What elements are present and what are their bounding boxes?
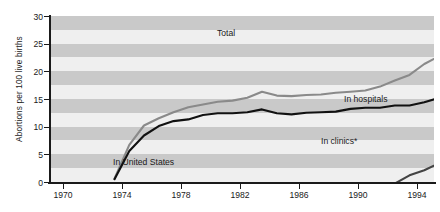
x-tick xyxy=(240,184,241,189)
y-tick xyxy=(44,154,49,155)
annotation-total: Total xyxy=(217,28,235,38)
x-tick-label: 1982 xyxy=(220,190,260,200)
y-tick-label: 10 xyxy=(17,122,43,132)
x-tick xyxy=(122,184,123,189)
y-tick xyxy=(44,71,49,72)
y-tick xyxy=(44,182,49,183)
x-tick-label: 1990 xyxy=(338,190,378,200)
annotation-in-hospitals: In hospitals xyxy=(344,94,387,104)
y-tick-label: 25 xyxy=(17,39,43,49)
y-tick-label: 15 xyxy=(17,95,43,105)
x-tick xyxy=(358,184,359,189)
y-tick-label: 5 xyxy=(17,150,43,160)
y-tick xyxy=(44,99,49,100)
y-axis-title: Abortions per 100 live births xyxy=(14,9,24,169)
x-tick-label: 1974 xyxy=(102,190,142,200)
y-tick-label: 30 xyxy=(17,12,43,22)
x-tick-label: 1994 xyxy=(397,190,437,200)
series-line-in-clinics xyxy=(233,148,435,182)
x-tick-label: 1986 xyxy=(279,190,319,200)
y-tick-label: 0 xyxy=(17,178,43,188)
x-axis-line xyxy=(48,182,436,184)
x-tick xyxy=(181,184,182,189)
x-tick-label: 1978 xyxy=(161,190,201,200)
x-tick xyxy=(299,184,300,189)
annotation-in-united-states: In United States xyxy=(113,157,174,167)
x-tick xyxy=(417,184,418,189)
grid-band xyxy=(51,16,434,30)
y-tick xyxy=(44,127,49,128)
y-tick xyxy=(44,16,49,17)
chart-figure: Abortions per 100 live births 30 25 20 1… xyxy=(0,0,440,212)
x-tick-label: 1970 xyxy=(43,190,83,200)
y-tick xyxy=(44,44,49,45)
x-tick xyxy=(63,184,64,189)
annotation-in-clinics: In clinics* xyxy=(321,136,357,146)
y-tick-label: 20 xyxy=(17,67,43,77)
y-axis-line xyxy=(49,15,51,183)
